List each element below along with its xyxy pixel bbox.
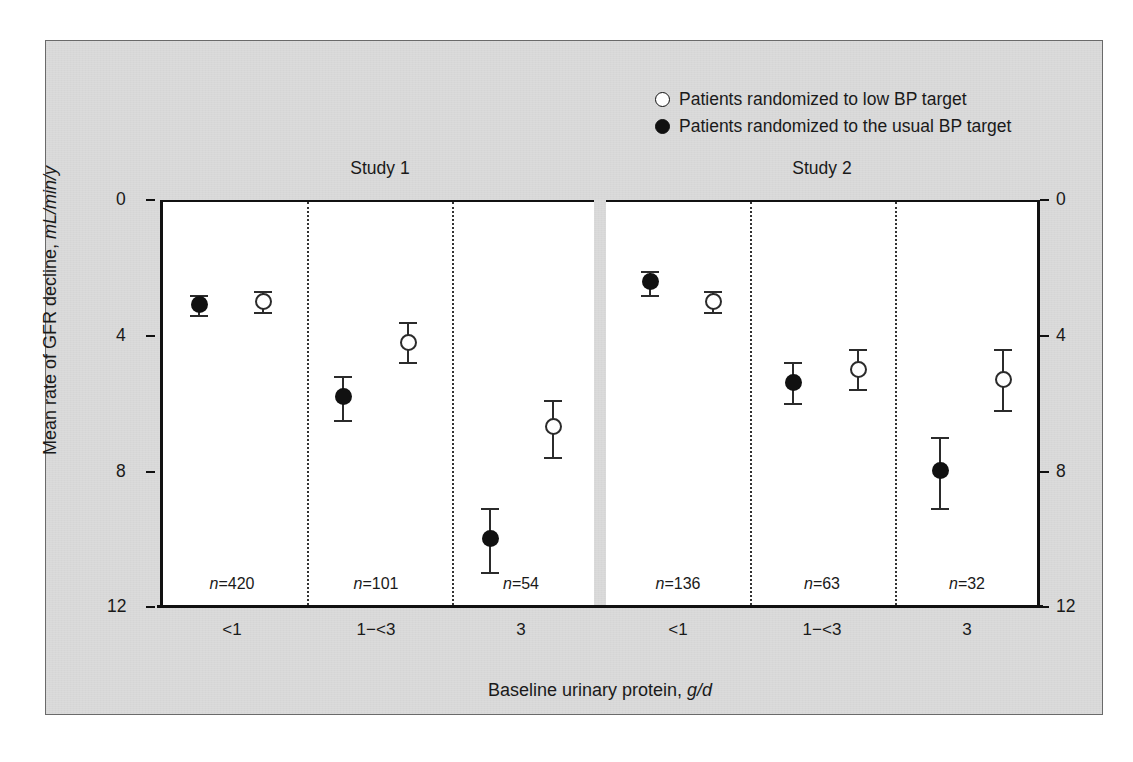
error-bar-cap-lower	[544, 457, 562, 459]
error-bar-cap-upper	[399, 322, 417, 324]
y-axis-title: Mean rate of GFR decline, mL/min/y	[40, 101, 61, 521]
error-bar-cap-lower	[994, 410, 1012, 412]
x-axis-title-unit: g/d	[687, 680, 712, 700]
category-divider-3	[750, 202, 752, 605]
error-bar-cap-upper	[334, 376, 352, 378]
n-label-2: n=54	[456, 575, 586, 593]
n-value-1: =101	[362, 575, 398, 592]
error-bar-cap-upper	[849, 349, 867, 351]
error-bar-cap-upper	[544, 400, 562, 402]
y-axis-title-unit: mL/min/y	[40, 166, 60, 239]
filled-circle-icon	[335, 388, 352, 405]
y-axis-title-text: Mean rate of GFR decline,	[40, 239, 60, 455]
error-bar-cap-upper	[481, 508, 499, 510]
x-category-label-1: 1−<3	[316, 620, 436, 640]
error-bar-cap-lower	[849, 389, 867, 391]
filled-circle-icon	[642, 273, 659, 290]
open-circle-icon	[995, 371, 1012, 388]
x-axis-title-text: Baseline urinary protein,	[488, 680, 687, 700]
filled-circle-icon	[191, 296, 208, 313]
legend-item-low-bp: Patients randomized to low BP target	[655, 86, 1075, 113]
x-category-label-2: 3	[461, 620, 581, 640]
x-axis-line	[157, 605, 1043, 608]
n-value-0: =420	[218, 575, 254, 592]
n-value-3: =136	[664, 575, 700, 592]
y-tick-mark-right-8	[1040, 471, 1049, 473]
open-circle-icon	[705, 293, 722, 310]
y-tick-mark-8	[146, 471, 155, 473]
error-bar-cap-lower	[399, 362, 417, 364]
figure-root: Patients randomized to low BP target Pat…	[0, 0, 1133, 762]
filled-circle-icon	[482, 530, 499, 547]
error-bar-cap-upper	[784, 362, 802, 364]
filled-circle-icon	[785, 374, 802, 391]
error-bar-cap-lower	[254, 312, 272, 314]
y-tick-label-0: 0	[116, 189, 126, 210]
plot-area-study-1	[160, 200, 594, 608]
legend-item-usual-bp: Patients randomized to the usual BP targ…	[655, 113, 1075, 140]
error-bar-cap-lower	[641, 295, 659, 297]
y-tick-mark-right-0	[1040, 199, 1049, 201]
n-value-4: =63	[813, 575, 840, 592]
error-bar-cap-lower	[784, 403, 802, 405]
study-2-title: Study 2	[742, 158, 902, 179]
n-label-0: n=420	[167, 575, 297, 593]
category-divider-4	[895, 202, 897, 605]
error-bar-cap-lower	[481, 572, 499, 574]
y-tick-label-right-0: 0	[1056, 189, 1066, 210]
study-1-title: Study 1	[300, 158, 460, 179]
open-circle-icon	[545, 418, 562, 435]
error-bar-cap-lower	[190, 315, 208, 317]
open-circle-icon	[400, 334, 417, 351]
legend-label-usual-bp: Patients randomized to the usual BP targ…	[679, 116, 1011, 137]
n-label-4: n=63	[757, 575, 887, 593]
y-tick-label-4: 4	[116, 325, 126, 346]
filled-circle-icon	[655, 119, 670, 134]
x-category-label-0: <1	[172, 620, 292, 640]
category-divider-1	[307, 202, 309, 605]
n-value-5: =32	[958, 575, 985, 592]
y-tick-label-right-4: 4	[1056, 325, 1066, 346]
x-axis-title: Baseline urinary protein, g/d	[160, 680, 1040, 701]
y-tick-mark-12	[146, 606, 155, 608]
category-divider-2	[452, 202, 454, 605]
n-value-2: =54	[512, 575, 539, 592]
y-tick-mark-right-4	[1040, 335, 1049, 337]
legend-label-low-bp: Patients randomized to low BP target	[679, 89, 967, 110]
x-category-label-4: 1−<3	[762, 620, 882, 640]
n-label-5: n=32	[902, 575, 1032, 593]
filled-circle-icon	[932, 462, 949, 479]
y-tick-label-12: 12	[107, 596, 126, 617]
open-circle-icon	[255, 293, 272, 310]
x-category-label-5: 3	[907, 620, 1027, 640]
y-tick-mark-0	[146, 199, 155, 201]
n-label-1: n=101	[311, 575, 441, 593]
y-tick-label-right-12: 12	[1056, 596, 1075, 617]
y-tick-mark-4	[146, 335, 155, 337]
error-bar-cap-lower	[334, 420, 352, 422]
open-circle-icon	[655, 92, 670, 107]
error-bar-cap-upper	[994, 349, 1012, 351]
y-tick-mark-right-12	[1040, 606, 1049, 608]
legend: Patients randomized to low BP target Pat…	[655, 86, 1075, 140]
error-bar-cap-lower	[704, 312, 722, 314]
open-circle-icon	[850, 361, 867, 378]
plot-area-study-2	[606, 200, 1040, 608]
n-label-3: n=136	[613, 575, 743, 593]
error-bar-cap-upper	[931, 437, 949, 439]
x-category-label-3: <1	[618, 620, 738, 640]
y-tick-label-8: 8	[116, 461, 126, 482]
y-tick-label-right-8: 8	[1056, 461, 1066, 482]
error-bar-cap-lower	[931, 508, 949, 510]
